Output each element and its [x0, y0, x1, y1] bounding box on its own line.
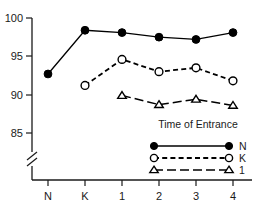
- legend-entry-K[interactable]: K: [150, 152, 246, 164]
- y-tick-label-90: 90: [11, 89, 23, 101]
- series-line-1: [122, 95, 233, 105]
- data-point-K-2: [155, 68, 163, 76]
- legend-label-K: K: [239, 152, 246, 164]
- x-axis: N K 1 2 3 4: [32, 180, 252, 202]
- data-point-N-3: [192, 36, 200, 44]
- x-tick-label-3: 3: [193, 190, 199, 202]
- y-axis: 100 95 90 85: [5, 12, 37, 180]
- series-K: [81, 56, 237, 90]
- chart-container: 100 95 90 85 N K 1 2 3 4 Time of Entranc…: [0, 0, 259, 211]
- data-point-1-3: [192, 95, 201, 102]
- x-tick-label-N: N: [44, 190, 52, 202]
- x-tick-label-1: 1: [119, 190, 125, 202]
- data-point-N-K: [81, 26, 89, 34]
- data-point-K-K: [81, 82, 89, 90]
- series-line-N: [48, 30, 233, 74]
- data-point-N-2: [155, 33, 163, 41]
- legend-label-1: 1: [239, 164, 245, 176]
- y-tick-label-100: 100: [5, 12, 23, 24]
- legend-entry-N[interactable]: N: [150, 140, 246, 152]
- data-point-N-4: [229, 29, 237, 37]
- series-layer: [44, 26, 237, 108]
- series-1: [118, 92, 238, 109]
- data-point-K-1: [118, 56, 126, 64]
- line-chart: 100 95 90 85 N K 1 2 3 4 Time of Entranc…: [0, 0, 259, 211]
- legend-entry-1[interactable]: 1: [150, 164, 245, 176]
- y-axis-break-icon: [27, 152, 37, 166]
- legend-label-N: N: [239, 140, 247, 152]
- data-point-N-1: [118, 29, 126, 37]
- series-N: [44, 26, 237, 78]
- data-point-K-4: [229, 77, 237, 85]
- data-point-N-N: [44, 70, 52, 78]
- x-tick-label-2: 2: [156, 190, 162, 202]
- legend-marker-N-right: [225, 142, 232, 149]
- x-tick-label-4: 4: [230, 190, 236, 202]
- legend-title: Time of Entrance: [158, 118, 238, 130]
- legend-marker-N-left: [150, 142, 157, 149]
- data-point-1-1: [118, 92, 127, 99]
- data-point-K-3: [192, 64, 200, 72]
- y-tick-label-85: 85: [11, 127, 23, 139]
- legend-marker-K-right: [225, 154, 232, 161]
- y-tick-label-95: 95: [11, 50, 23, 62]
- legend-marker-K-left: [150, 154, 157, 161]
- x-tick-label-K: K: [81, 190, 89, 202]
- legend: Time of Entrance N K 1: [150, 118, 247, 176]
